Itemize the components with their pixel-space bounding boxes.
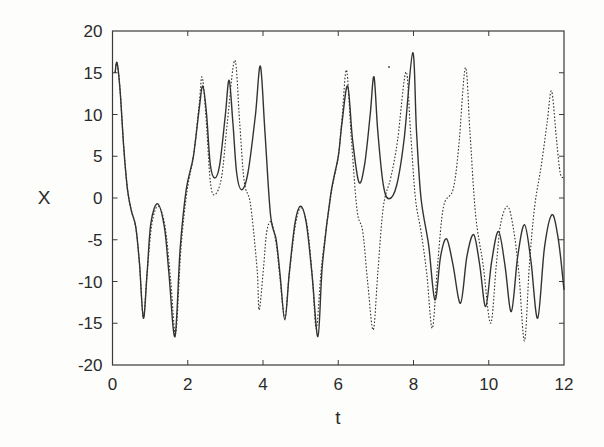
line-chart: 024681012 -20-15-10-505101520 t X	[0, 0, 604, 447]
x-tick-label: 4	[258, 375, 267, 394]
y-tick-label: 20	[84, 22, 103, 41]
y-tick-label: -20	[78, 356, 103, 375]
stray-dot-artifact	[388, 66, 390, 68]
x-tick-label: 0	[108, 375, 117, 394]
x-tick-label: 8	[409, 375, 418, 394]
y-tick-label: 10	[84, 106, 103, 125]
x-axis-title: t	[335, 407, 341, 428]
y-tick-label: -5	[87, 231, 102, 250]
y-axis-title: X	[38, 187, 51, 208]
y-tick-label: -15	[78, 314, 103, 333]
x-tick-label: 2	[183, 375, 192, 394]
x-tick-label: 10	[479, 375, 498, 394]
y-tick-label: 0	[93, 189, 102, 208]
x-tick-label: 12	[555, 375, 574, 394]
x-tick-label: 6	[334, 375, 343, 394]
y-tick-label: 15	[84, 64, 103, 83]
y-tick-label: 5	[93, 147, 102, 166]
y-tick-label: -10	[78, 273, 103, 292]
